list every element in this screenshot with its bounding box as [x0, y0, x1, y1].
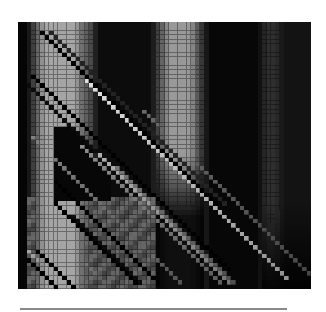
heatmap-grid [18, 22, 311, 289]
baseline-rule [20, 308, 287, 310]
heatmap-cell [307, 285, 312, 290]
